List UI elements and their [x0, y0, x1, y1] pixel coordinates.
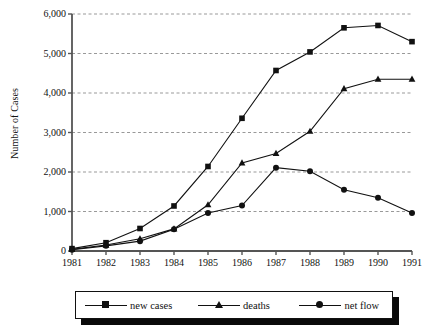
data-point-new-cases — [341, 25, 347, 31]
series-line-new-cases — [72, 25, 412, 248]
circle-marker-icon — [316, 301, 323, 308]
data-point-net-flow — [205, 210, 211, 216]
data-point-net-flow — [273, 165, 279, 171]
data-point-net-flow — [239, 203, 245, 209]
legend-label: net flow — [344, 300, 379, 311]
series-line-net-flow — [72, 168, 412, 250]
data-point-new-cases — [205, 164, 211, 170]
data-point-net-flow — [69, 247, 75, 253]
data-point-net-flow — [103, 243, 109, 249]
data-point-new-cases — [409, 39, 415, 45]
legend-marker-circle-icon — [299, 300, 341, 310]
data-point-net-flow — [171, 226, 177, 232]
legend-item-deaths[interactable]: deaths — [181, 300, 286, 311]
square-marker-icon — [102, 301, 109, 308]
line-chart: Number of Cases 01,0002,0003,0004,0005,0… — [0, 0, 423, 331]
data-point-new-cases — [273, 68, 279, 74]
data-point-new-cases — [307, 49, 313, 55]
data-point-new-cases — [375, 23, 381, 29]
data-point-net-flow — [307, 168, 313, 174]
data-point-new-cases — [171, 203, 177, 209]
data-point-net-flow — [375, 195, 381, 201]
data-point-new-cases — [137, 226, 143, 232]
data-point-deaths — [273, 150, 280, 156]
triangle-marker-icon — [215, 301, 223, 308]
data-point-new-cases — [239, 115, 245, 121]
legend-label: new cases — [130, 300, 172, 311]
legend-marker-triangle-icon — [198, 300, 240, 310]
legend-item-net-flow[interactable]: net flow — [287, 300, 392, 311]
legend-marker-square-icon — [85, 300, 127, 310]
data-point-net-flow — [137, 238, 143, 244]
plot-area — [0, 0, 423, 331]
legend-label: deaths — [243, 300, 270, 311]
data-point-net-flow — [341, 187, 347, 193]
legend-item-new-cases[interactable]: new cases — [76, 300, 181, 311]
data-point-net-flow — [409, 210, 415, 216]
chart-legend: new casesdeathsnet flow — [75, 291, 393, 319]
